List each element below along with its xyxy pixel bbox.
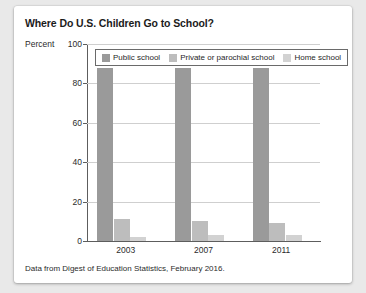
y-axis-tick-label: 60 [73,118,82,128]
x-axis-tick-label: 2007 [194,245,213,255]
bar-home-school-2011 [286,235,302,241]
y-axis-tick-labels: 020406080100 [54,6,82,283]
y-axis-tick [83,123,87,124]
bar-private-or-parochial-school-2003 [114,219,130,241]
y-axis-tick [83,162,87,163]
legend-swatch-icon [102,54,110,62]
gridline [87,123,320,124]
chart-legend: Public schoolPrivate or parochial school… [95,49,348,66]
plot-area [87,44,320,241]
legend-label: Private or parochial school [180,53,274,62]
y-axis-tick-label: 100 [68,39,82,49]
gridline [87,202,320,203]
legend-swatch-icon [169,54,177,62]
y-axis-tick [83,202,87,203]
y-axis-tick-label: 0 [77,236,82,246]
y-axis-title: Percent [25,39,54,49]
legend-entry: Home school [283,53,341,62]
y-axis-tick-label: 40 [73,157,82,167]
bar-public-school-2003 [97,68,113,241]
bar-private-or-parochial-school-2007 [192,221,208,241]
bar-home-school-2003 [130,237,146,241]
y-axis-tick [83,44,87,45]
bar-public-school-2011 [253,68,269,241]
gridline [87,162,320,163]
y-axis-tick [83,83,87,84]
gridline [87,83,320,84]
legend-entry: Private or parochial school [169,53,274,62]
x-axis-tick-label: 2003 [116,245,135,255]
legend-label: Public school [113,53,160,62]
bar-home-school-2007 [208,235,224,241]
source-note: Data from Digest of Education Statistics… [25,264,225,273]
figure-card: Where Do U.S. Children Go to School? Per… [14,6,352,283]
legend-entry: Public school [102,53,160,62]
y-axis-tick-label: 20 [73,197,82,207]
gridline [87,44,320,45]
legend-label: Home school [294,53,341,62]
y-axis-tick [83,241,87,242]
bar-private-or-parochial-school-2011 [269,223,285,241]
bar-public-school-2007 [175,68,191,241]
legend-swatch-icon [283,54,291,62]
x-axis-tick-label: 2011 [272,245,290,255]
y-axis-tick-label: 80 [73,78,82,88]
x-axis-line [87,241,321,242]
